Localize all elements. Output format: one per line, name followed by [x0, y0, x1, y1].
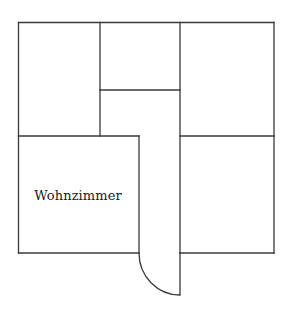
room-top-left [19, 23, 100, 136]
room-top-right [180, 23, 274, 136]
room-bottom-right [180, 136, 274, 253]
living-room-label: Wohnzimmer [34, 188, 122, 203]
hallway [139, 90, 180, 253]
room-top-middle [100, 23, 180, 90]
floor-plan-diagram [0, 0, 300, 311]
entrance-door[interactable] [139, 253, 180, 295]
door-swing-arc [139, 253, 180, 295]
